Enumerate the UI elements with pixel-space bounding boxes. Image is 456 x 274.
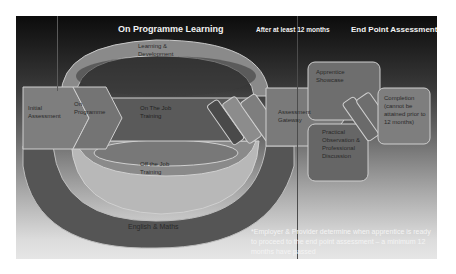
header-after-months: After at least 12 months xyxy=(256,26,330,33)
label-learning-development: Learning & Development xyxy=(138,42,182,58)
label-assessment-gateway: Assessment Gateway xyxy=(278,108,316,124)
divider-left xyxy=(57,16,58,91)
label-on-programme: On Programme xyxy=(74,100,108,116)
label-practical-observation: Practical Observation & Professional Dis… xyxy=(322,128,362,160)
diagram-shapes xyxy=(16,16,437,259)
apprenticeship-diagram: On Programme Learning After at least 12 … xyxy=(16,16,437,259)
label-english-maths: English & Maths xyxy=(128,223,208,231)
header-end-point: End Point Assessment xyxy=(351,25,437,34)
label-apprentice-showcase: Apprentice Showcase xyxy=(316,68,354,84)
footnote: *Employer & Provider determine when appr… xyxy=(251,227,431,257)
label-off-the-job: Off the Job Training xyxy=(140,160,170,176)
label-completion: Completion (cannot be attained prior to … xyxy=(384,94,428,126)
header-on-programme: On Programme Learning xyxy=(118,24,224,34)
divider-right xyxy=(297,16,298,259)
label-initial-assessment: Initial Assessment xyxy=(28,104,68,120)
label-on-the-job: On The Job Training xyxy=(140,104,180,120)
